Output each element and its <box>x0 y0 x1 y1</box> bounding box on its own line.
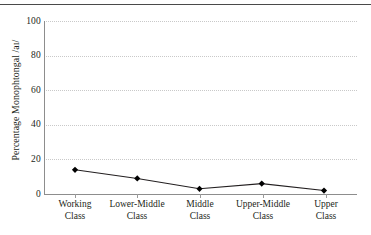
series-markers <box>72 167 327 194</box>
data-point-lower-middle-class <box>134 175 140 181</box>
data-point-upper-middle-class <box>259 181 265 187</box>
data-point-upper-class <box>321 187 327 193</box>
data-series-monophthongal-ai <box>0 0 371 235</box>
chart-figure: Percentage Monophtongal /aɪ/ 100 80 60 4… <box>0 0 371 235</box>
data-point-working-class <box>72 167 78 173</box>
data-point-middle-class <box>196 186 202 192</box>
